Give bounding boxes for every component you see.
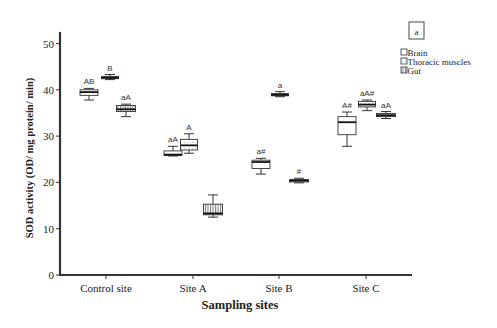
x-tick-label: Site C xyxy=(352,282,379,294)
y-tick-label: 30 xyxy=(43,130,55,142)
y-tick-label: 10 xyxy=(43,223,55,235)
significance-label: AB xyxy=(84,77,95,86)
significance-label: aA xyxy=(168,135,178,144)
y-tick-label: 40 xyxy=(43,84,55,96)
box-thoracic-muscles: aA# xyxy=(359,89,376,111)
box-gut xyxy=(204,195,223,217)
box-gut: # xyxy=(290,167,309,183)
box-brain: aA xyxy=(164,135,182,156)
x-tick-label: Site A xyxy=(179,282,206,294)
x-axis-label: Sampling sites xyxy=(202,298,279,312)
box-brain: a# xyxy=(252,147,270,174)
box-gut: aA xyxy=(377,101,396,119)
legend-swatch xyxy=(401,49,407,55)
significance-label: a xyxy=(278,81,283,90)
x-tick-label: Site B xyxy=(265,282,292,294)
significance-label: aA xyxy=(381,101,391,110)
y-tick-label: 50 xyxy=(43,38,55,50)
box-thoracic-muscles: A xyxy=(181,123,198,153)
significance-label: B xyxy=(107,64,112,73)
box-thoracic-muscles: a xyxy=(272,81,289,97)
significance-label: # xyxy=(297,167,302,176)
y-axis-label: SOD activity (OD/ mg protein/ min) xyxy=(24,77,36,238)
y-tick-label: 20 xyxy=(43,176,55,188)
axes: 01020304050Control siteSite ASite BSite … xyxy=(24,32,412,312)
significance-label: a# xyxy=(257,147,266,156)
box-gut: aA xyxy=(117,93,136,117)
legend: aBrainThoracic musclesGut xyxy=(401,22,471,76)
y-tick-label: 0 xyxy=(49,269,55,281)
significance-label: A xyxy=(186,123,192,132)
box-brain: AB xyxy=(80,77,98,100)
box-brain: A# xyxy=(338,101,356,146)
legend-swatch xyxy=(401,67,407,73)
legend-label: Gut xyxy=(408,66,422,76)
significance-label: A# xyxy=(342,101,352,110)
box-plot-chart: 01020304050Control siteSite ASite BSite … xyxy=(0,0,497,328)
panel-label: a xyxy=(415,27,419,37)
significance-label: aA xyxy=(121,93,131,102)
significance-label: aA# xyxy=(360,89,375,98)
boxes: ABaAa#A#BAaaA#aA#aA xyxy=(80,64,396,218)
box-thoracic-muscles: B xyxy=(102,64,119,80)
legend-swatch xyxy=(401,58,407,64)
x-tick-label: Control site xyxy=(80,282,132,294)
